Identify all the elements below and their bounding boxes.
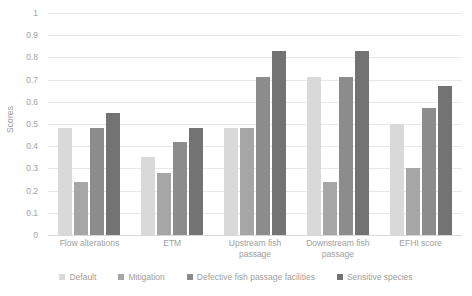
legend-swatch	[187, 274, 193, 280]
legend-item[interactable]: Defective fish passage facilities	[187, 272, 315, 282]
legend-label: Default	[69, 272, 96, 282]
plot-area	[48, 13, 462, 235]
bar[interactable]	[323, 182, 337, 235]
x-tick-label: EFHI score	[379, 238, 462, 260]
bar[interactable]	[224, 128, 238, 235]
y-tick-label: 0.7	[26, 75, 38, 85]
bar[interactable]	[141, 157, 155, 235]
bar[interactable]	[90, 128, 104, 235]
bar[interactable]	[339, 77, 353, 235]
legend-swatch	[59, 274, 65, 280]
y-tick-label: 0.6	[26, 97, 38, 107]
gridline	[48, 235, 462, 236]
bar[interactable]	[173, 142, 187, 235]
legend-item[interactable]: Mitigation	[118, 272, 164, 282]
x-tick-label: Downstream fish passage	[296, 238, 379, 260]
bar-group	[296, 13, 379, 235]
legend-item[interactable]: Sensitive species	[337, 272, 413, 282]
legend-item[interactable]: Default	[59, 272, 96, 282]
bar[interactable]	[256, 77, 270, 235]
legend-label: Defective fish passage facilities	[197, 272, 315, 282]
bar[interactable]	[157, 173, 171, 235]
y-tick-label: 0.1	[26, 208, 38, 218]
x-axis-labels: Flow alterationsETMUpstream fish passage…	[48, 238, 462, 260]
legend-label: Mitigation	[128, 272, 164, 282]
legend-swatch	[337, 274, 343, 280]
bar-chart: Scores 00.10.20.30.40.50.60.70.80.91 Flo…	[0, 0, 472, 296]
y-tick-label: 0.9	[26, 30, 38, 40]
y-tick-label: 0.2	[26, 186, 38, 196]
x-tick-label: Upstream fish passage	[214, 238, 297, 260]
y-tick-label: 0	[33, 230, 38, 240]
bar-group	[379, 13, 462, 235]
bar[interactable]	[406, 168, 420, 235]
bar[interactable]	[272, 51, 286, 235]
y-tick-label: 0.5	[26, 119, 38, 129]
bar[interactable]	[58, 128, 72, 235]
bar[interactable]	[240, 128, 254, 235]
bar[interactable]	[74, 182, 88, 235]
legend-label: Sensitive species	[347, 272, 413, 282]
bar-group	[131, 13, 214, 235]
bar[interactable]	[355, 51, 369, 235]
bar[interactable]	[422, 108, 436, 235]
y-tick-label: 0.8	[26, 52, 38, 62]
bar-groups	[48, 13, 462, 235]
bar-group	[48, 13, 131, 235]
x-tick-label: Flow alterations	[48, 238, 131, 260]
y-tick-label: 0.4	[26, 141, 38, 151]
x-tick-label: ETM	[131, 238, 214, 260]
bar[interactable]	[189, 128, 203, 235]
bar[interactable]	[307, 77, 321, 235]
chart-legend: DefaultMitigationDefective fish passage …	[0, 272, 472, 282]
y-axis-ticks: 00.10.20.30.40.50.60.70.80.91	[0, 13, 44, 235]
bar[interactable]	[106, 113, 120, 235]
bar-group	[214, 13, 297, 235]
y-tick-label: 0.3	[26, 163, 38, 173]
bar[interactable]	[390, 124, 404, 235]
y-tick-label: 1	[33, 8, 38, 18]
bar[interactable]	[438, 86, 452, 235]
legend-swatch	[118, 274, 124, 280]
